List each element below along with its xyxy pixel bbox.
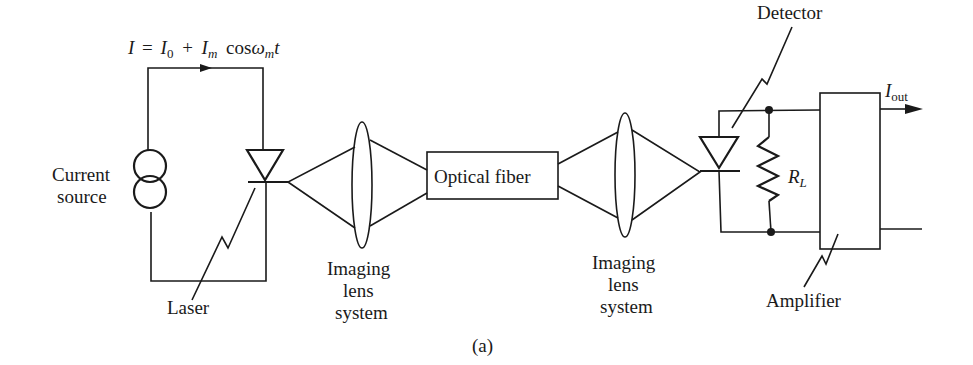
lens1-label-1: Imaging bbox=[327, 258, 391, 279]
imaging-lens-2 bbox=[558, 113, 700, 237]
output-current-label: Iout bbox=[884, 80, 908, 104]
laser-label: Laser bbox=[167, 297, 210, 318]
detector-label: Detector bbox=[757, 2, 823, 23]
lens2-label-1: Imaging bbox=[592, 252, 656, 273]
lens2-label-3: system bbox=[600, 296, 653, 317]
amplifier-label: Amplifier bbox=[766, 290, 842, 311]
lens1-label-3: system bbox=[335, 302, 388, 323]
current-source-label-2: source bbox=[57, 186, 107, 207]
current-source-label-1: Current bbox=[52, 164, 111, 185]
imaging-lens-1 bbox=[288, 122, 427, 248]
current-equation: I = I0 + Im cosωmt bbox=[127, 37, 280, 62]
detector-leader-line bbox=[732, 27, 792, 128]
lens1-label-2: lens bbox=[343, 280, 374, 301]
current-direction-arrow-icon bbox=[200, 64, 212, 72]
optical-fiber-label: Optical fiber bbox=[434, 166, 531, 187]
optical-link-diagram: I = I0 + Im cosωmt Current source Laser … bbox=[0, 0, 973, 365]
lens2-label-2: lens bbox=[608, 274, 639, 295]
detector-diode-icon bbox=[700, 137, 740, 171]
output-arrow-icon bbox=[905, 104, 923, 114]
load-resistor-icon bbox=[758, 106, 778, 236]
figure-caption: (a) bbox=[472, 335, 493, 357]
current-source-icon bbox=[134, 150, 166, 208]
laser-diode-icon bbox=[247, 150, 288, 182]
amplifier-leader-line bbox=[804, 234, 838, 287]
laser-leader-line bbox=[192, 188, 255, 300]
amplifier-box bbox=[820, 93, 880, 249]
load-resistor-label: RL bbox=[787, 166, 807, 190]
